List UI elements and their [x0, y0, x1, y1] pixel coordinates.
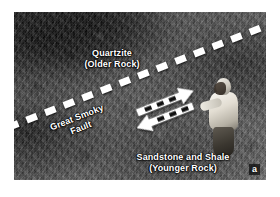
- label-quartzite-name: Quartzite: [64, 48, 160, 59]
- label-sandstone-shale: Sandstone and Shale (Younger Rock): [118, 152, 248, 174]
- label-sandstone-qualifier: (Younger Rock): [118, 163, 248, 174]
- label-sandstone-name: Sandstone and Shale: [118, 152, 248, 163]
- panel-letter-badge: a: [249, 164, 260, 175]
- label-quartzite-qualifier: (Older Rock): [64, 59, 160, 70]
- outcrop-photograph: Quartzite (Older Rock) Sandstone and Sha…: [14, 12, 266, 180]
- label-quartzite: Quartzite (Older Rock): [64, 48, 160, 70]
- person-torso: [209, 92, 238, 130]
- person-hair: [214, 82, 226, 95]
- figure-container: Quartzite (Older Rock) Sandstone and Sha…: [0, 0, 280, 197]
